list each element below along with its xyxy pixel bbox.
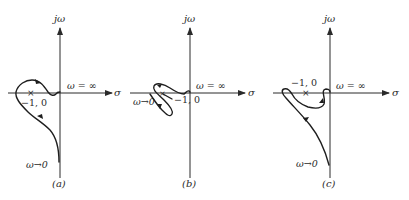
critical-point-label: −1, 0: [291, 77, 317, 88]
real-axis-label: σ: [248, 87, 256, 98]
omega-infinity-label: ω = ∞: [196, 80, 226, 91]
nyquist-curve: [16, 80, 60, 162]
direction-arrow-icon: [157, 84, 162, 88]
critical-point-marker: ×: [302, 88, 310, 98]
direction-arrow-icon: [37, 114, 43, 119]
critical-point-label: −1, 0: [21, 97, 47, 108]
direction-arrow-icon: [319, 98, 324, 103]
nyquist-figure: jω σ ω = ∞ × −1, 0 ω→0 (a) jω σ ω = ∞ × …: [0, 0, 409, 200]
omega-infinity-label: ω = ∞: [336, 80, 366, 91]
omega-zero-label: ω→0: [296, 158, 318, 169]
panel-a: jω σ ω = ∞ × −1, 0 ω→0 (a): [8, 13, 122, 189]
panel-c: jω σ ω = ∞ × −1, 0 ω→0 (c): [273, 13, 400, 189]
omega-zero-label: ω→0: [133, 96, 155, 107]
panel-caption: (b): [182, 178, 196, 189]
omega-infinity-label: ω = ∞: [67, 80, 97, 91]
imaginary-axis-label: jω: [52, 13, 65, 24]
real-axis-label: σ: [392, 87, 400, 98]
panel-caption: (c): [322, 178, 336, 189]
imaginary-axis-label: jω: [182, 13, 195, 24]
imaginary-axis-label: jω: [322, 13, 335, 24]
panel-b: jω σ ω = ∞ × −1, 0 ω→0 (b): [130, 13, 256, 189]
panel-caption: (a): [52, 178, 66, 189]
critical-point-label: −1, 0: [174, 94, 200, 105]
omega-zero-label: ω→0: [26, 159, 48, 170]
real-axis-label: σ: [114, 87, 122, 98]
